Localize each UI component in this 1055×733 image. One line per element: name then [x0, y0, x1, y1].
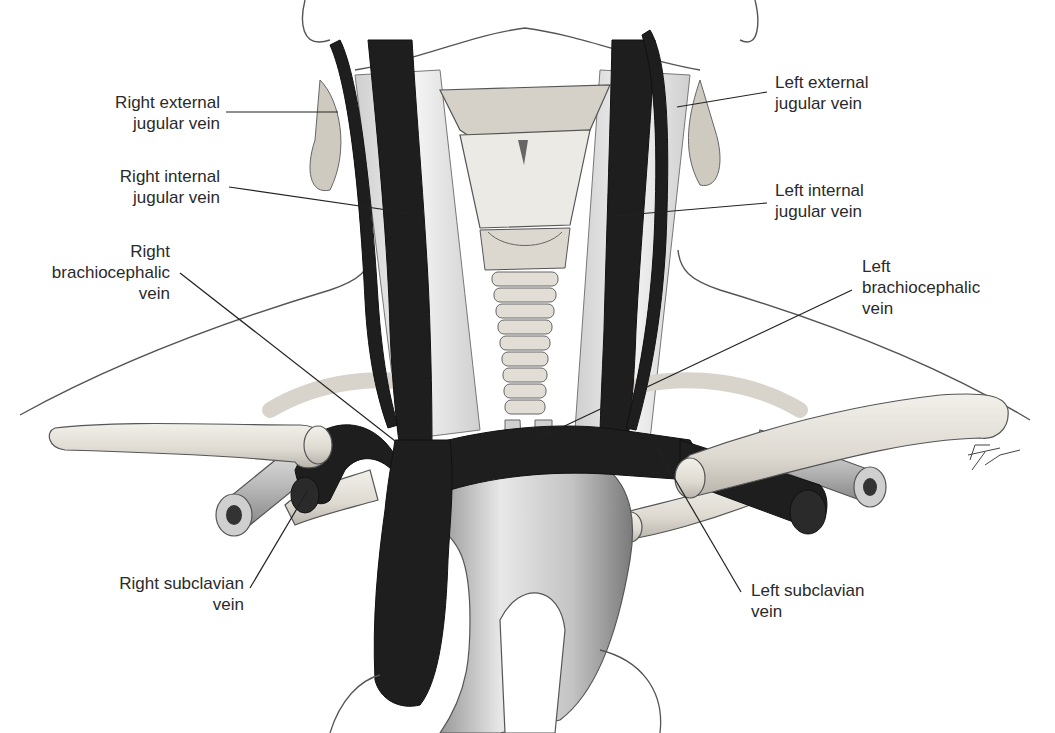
- label-right-external-jugular-vein: Right external jugular vein: [70, 92, 220, 134]
- label-left-internal-jugular-vein: Left internal jugular vein: [775, 180, 864, 222]
- anatomy-figure: Right external jugular vein Right intern…: [0, 0, 1055, 733]
- label-right-brachiocephalic-vein: Right brachiocephalic vein: [10, 241, 170, 304]
- trachea: [492, 272, 558, 414]
- label-left-external-jugular-vein: Left external jugular vein: [775, 72, 869, 114]
- label-left-subclavian-vein: Left subclavian vein: [751, 580, 864, 622]
- label-right-internal-jugular-vein: Right internal jugular vein: [70, 166, 220, 208]
- leader-left-external-jugular: [677, 92, 767, 107]
- label-right-subclavian-vein: Right subclavian vein: [80, 573, 244, 615]
- larynx: [440, 85, 610, 270]
- label-left-brachiocephalic-vein: Left brachiocephalic vein: [862, 256, 980, 319]
- artist-signature: [968, 445, 1020, 470]
